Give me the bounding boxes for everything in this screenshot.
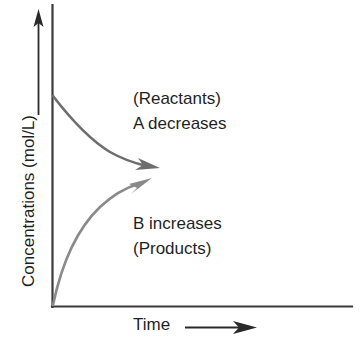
annotation-products: B increases (Products) <box>133 211 222 261</box>
kinetics-concentration-diagram: (Reactants) A decreases B increases (Pro… <box>0 0 364 349</box>
annotation-reactants: (Reactants) A decreases <box>133 86 227 136</box>
y-axis-label: Concentrations (mol/L) <box>19 101 39 301</box>
annotation-reactants-line2: A decreases <box>133 111 227 136</box>
plot-canvas <box>0 0 364 349</box>
curve-b-increasing <box>53 184 138 305</box>
annotation-reactants-line1: (Reactants) <box>133 86 227 111</box>
x-axis-label: Time <box>133 315 170 335</box>
annotation-products-line1: B increases <box>133 211 222 236</box>
annotation-products-line2: (Products) <box>133 236 222 261</box>
